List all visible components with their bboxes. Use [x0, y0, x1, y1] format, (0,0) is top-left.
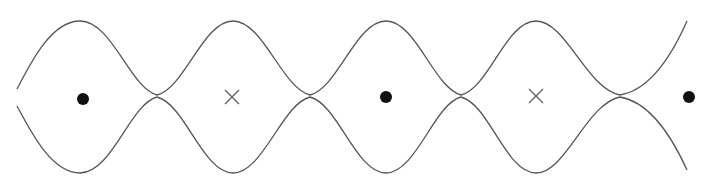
dot-marker [380, 91, 392, 103]
cross-marker [529, 89, 543, 103]
cross-marker [225, 90, 239, 104]
lower-curve-path [17, 97, 687, 173]
pinched-curves-diagram [0, 0, 716, 180]
upper-curve-path [17, 21, 687, 95]
lower-curve [17, 97, 687, 173]
dot-marker [683, 91, 695, 103]
markers [77, 89, 695, 105]
upper-curve [17, 21, 687, 95]
dot-marker [77, 93, 89, 105]
